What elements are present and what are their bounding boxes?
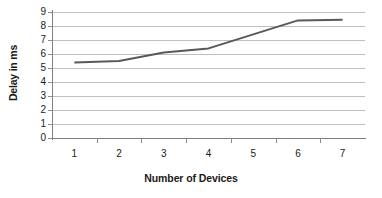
x-axis-tick-mark [97,139,98,143]
y-axis-tick-label: 4 [40,77,46,87]
x-axis-tick-label: 6 [295,148,301,160]
y-axis-tick-labels: 0123456789 [28,0,50,145]
x-axis-tick-label: 4 [206,148,212,160]
x-axis-tick-mark [276,139,277,143]
y-axis-tick-label: 5 [40,63,46,73]
x-axis-tick-labels: 1234567 [52,148,365,162]
y-axis-line [52,10,53,140]
plot-svg [52,12,365,138]
x-axis-tick-marks [52,139,365,144]
x-axis-tick-label: 7 [340,148,346,160]
x-axis-tick-mark [186,139,187,143]
x-axis-tick-label: 3 [161,148,167,160]
x-axis-tick-label: 1 [72,148,78,160]
x-axis-tick-mark [141,139,142,143]
x-axis-tick-mark [320,139,321,143]
gridlines [52,13,365,125]
x-axis-tick-mark [231,139,232,143]
plot-area [52,12,365,138]
y-axis-tick-label: 3 [40,91,46,101]
y-axis-tick-label: 8 [40,21,46,31]
x-axis-title: Number of Devices [0,172,382,184]
y-axis-title-text: Delay in ms [7,44,19,100]
x-axis-tick-label: 2 [116,148,122,160]
y-axis-tick-label: 9 [40,7,46,17]
x-axis-tick-label: 5 [250,148,256,160]
y-axis-tick-label: 6 [40,49,46,59]
y-axis-title: Delay in ms [2,0,24,145]
y-axis-tick-label: 2 [40,105,46,115]
line-chart: Delay in ms 0123456789 1234567 Number of… [0,0,382,198]
y-axis-tick-label: 0 [40,133,46,143]
y-axis-tick-label: 7 [40,35,46,45]
y-axis-tick-label: 1 [40,119,46,129]
